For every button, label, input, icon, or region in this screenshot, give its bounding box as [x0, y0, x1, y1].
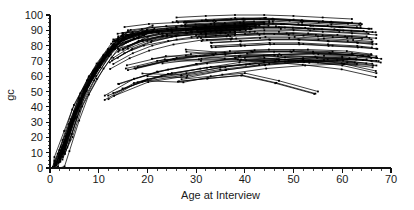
x-tick-label: 60 [336, 173, 348, 185]
data-point-marker [162, 35, 164, 37]
data-point-marker [289, 51, 291, 53]
data-point-marker [249, 31, 251, 33]
data-point-marker [234, 14, 236, 16]
data-point-marker [93, 80, 95, 82]
y-tick-label: 40 [31, 101, 43, 113]
data-point-marker [82, 96, 84, 98]
data-point-marker [240, 75, 242, 77]
data-point-marker [52, 166, 54, 168]
data-point-marker [73, 104, 75, 106]
data-point-marker [200, 60, 202, 62]
data-point-marker [198, 36, 200, 38]
data-point-marker [370, 53, 372, 55]
data-point-marker [352, 39, 354, 41]
data-point-marker [303, 35, 305, 37]
data-point-marker [268, 22, 270, 24]
data-point-marker [343, 63, 345, 65]
data-point-marker [246, 53, 248, 55]
data-point-marker [273, 51, 275, 53]
data-point-marker [367, 55, 369, 57]
data-point-marker [293, 29, 295, 31]
y-tick-label: 80 [31, 40, 43, 52]
data-point-marker [127, 69, 129, 71]
data-point-marker [88, 77, 90, 79]
data-point-marker [111, 60, 113, 62]
data-point-marker [356, 55, 358, 57]
data-point-marker [195, 26, 197, 28]
data-point-marker [185, 30, 187, 32]
data-point-marker [322, 17, 324, 19]
data-point-marker [328, 52, 330, 54]
data-point-marker [65, 135, 67, 137]
data-point-marker [380, 58, 382, 60]
data-point-marker [150, 41, 152, 43]
data-point-marker [254, 31, 256, 33]
data-point-marker [263, 29, 265, 31]
data-point-marker [151, 58, 153, 60]
data-point-marker [205, 15, 207, 17]
data-point-marker [301, 19, 303, 21]
x-tick-label: 20 [141, 173, 153, 185]
data-point-marker [230, 39, 232, 41]
data-point-marker [244, 72, 246, 74]
data-point-marker [344, 36, 346, 38]
data-point-marker [317, 53, 319, 55]
data-point-marker [229, 31, 231, 33]
data-point-marker [215, 29, 217, 31]
data-point-marker [206, 78, 208, 80]
spaghetti-plot: 0102030405060708090100 010203040506070 g… [0, 0, 414, 210]
data-point-marker [81, 106, 83, 108]
data-point-marker [214, 24, 216, 26]
data-point-marker [201, 40, 203, 42]
data-point-marker [141, 28, 143, 30]
data-point-marker [337, 29, 339, 31]
data-point-marker [122, 36, 124, 38]
data-point-marker [59, 161, 61, 163]
data-point-marker [338, 26, 340, 28]
data-point-marker [95, 75, 97, 77]
data-point-marker [257, 32, 259, 34]
data-point-marker [152, 25, 154, 27]
data-point-marker [239, 55, 241, 57]
data-point-marker [234, 23, 236, 25]
data-point-marker [263, 21, 265, 23]
data-point-marker [104, 95, 106, 97]
data-point-marker [156, 60, 158, 62]
data-point-marker [148, 23, 150, 25]
data-point-marker [307, 49, 309, 51]
data-point-marker [190, 31, 192, 33]
data-point-marker [63, 130, 65, 132]
data-point-marker [220, 32, 222, 34]
data-point-marker [356, 45, 358, 47]
data-point-marker [71, 133, 73, 135]
data-point-marker [360, 27, 362, 29]
data-point-marker [351, 32, 353, 34]
data-point-marker [73, 115, 75, 117]
data-point-marker [235, 57, 237, 59]
data-point-marker [64, 153, 66, 155]
data-point-marker [114, 48, 116, 50]
data-point-marker [307, 28, 309, 30]
data-point-marker [321, 28, 323, 30]
data-point-marker [191, 36, 193, 38]
data-point-marker [197, 37, 199, 39]
data-point-marker [108, 55, 110, 57]
data-point-marker [313, 93, 315, 95]
data-point-marker [372, 41, 374, 43]
data-point-marker [341, 56, 343, 58]
data-point-marker [278, 31, 280, 33]
data-point-marker [186, 51, 188, 53]
data-point-marker [375, 34, 377, 36]
data-point-marker [110, 54, 112, 56]
data-point-marker [70, 126, 72, 128]
data-point-marker [69, 150, 71, 152]
data-point-marker [206, 67, 208, 69]
data-point-marker [180, 74, 182, 76]
data-point-marker [144, 31, 146, 33]
data-point-marker [375, 76, 377, 78]
data-point-marker [122, 39, 124, 41]
data-point-marker [224, 69, 226, 71]
data-point-marker [211, 42, 213, 44]
data-point-marker [123, 52, 125, 54]
data-point-marker [215, 26, 217, 28]
